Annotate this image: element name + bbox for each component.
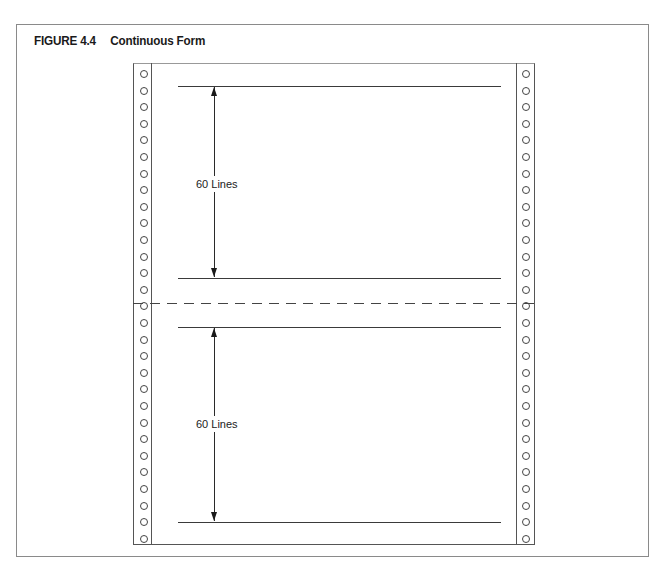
sprocket-hole-icon xyxy=(140,468,148,476)
page2-bottom-line xyxy=(178,522,501,523)
sprocket-hole-icon xyxy=(140,87,148,95)
sprocket-hole-icon xyxy=(522,87,530,95)
sprocket-hole-icon xyxy=(522,186,530,194)
sprocket-hole-icon xyxy=(140,269,148,277)
continuous-form-paper xyxy=(133,63,535,545)
sprocket-hole-icon xyxy=(522,203,530,211)
sprocket-hole-icon xyxy=(140,236,148,244)
sprocket-hole-icon xyxy=(140,518,148,526)
sprocket-hole-icon xyxy=(140,70,148,78)
sprocket-hole-icon xyxy=(522,236,530,244)
page1-line-count-label: 60 Lines xyxy=(194,176,240,192)
sprocket-hole-icon xyxy=(140,535,148,543)
sprocket-hole-icon xyxy=(140,435,148,443)
sprocket-hole-icon xyxy=(140,385,148,393)
sprocket-hole-icon xyxy=(140,452,148,460)
sprocket-hole-icon xyxy=(140,402,148,410)
sprocket-hole-icon xyxy=(522,402,530,410)
sprocket-hole-icon xyxy=(522,170,530,178)
sprocket-hole-icon xyxy=(522,336,530,344)
sprocket-hole-icon xyxy=(522,352,530,360)
sprocket-hole-icon xyxy=(140,170,148,178)
sprocket-hole-icon xyxy=(140,136,148,144)
arrow-up-icon xyxy=(211,87,217,96)
sprocket-hole-icon xyxy=(522,419,530,427)
sprocket-hole-icon xyxy=(140,485,148,493)
sprocket-hole-icon xyxy=(522,452,530,460)
left-sprocket-strip xyxy=(133,63,152,545)
sprocket-hole-icon xyxy=(522,468,530,476)
sprocket-hole-icon xyxy=(522,319,530,327)
sprocket-hole-icon xyxy=(140,419,148,427)
sprocket-hole-icon xyxy=(522,369,530,377)
sprocket-hole-icon xyxy=(522,219,530,227)
right-sprocket-strip xyxy=(516,63,535,545)
arrow-down-icon xyxy=(211,512,217,521)
sprocket-hole-icon xyxy=(140,120,148,128)
sprocket-hole-icon xyxy=(522,535,530,543)
sprocket-hole-icon xyxy=(522,153,530,161)
sprocket-hole-icon xyxy=(522,385,530,393)
page1-top-line xyxy=(178,86,501,87)
sprocket-hole-icon xyxy=(140,103,148,111)
sprocket-hole-icon xyxy=(140,352,148,360)
figure-caption: FIGURE 4.4Continuous Form xyxy=(34,33,205,48)
sprocket-hole-icon xyxy=(140,502,148,510)
perforation-dashed-line xyxy=(133,303,535,304)
sprocket-hole-icon xyxy=(522,103,530,111)
figure-number: FIGURE 4.4 xyxy=(34,33,96,48)
sprocket-hole-icon xyxy=(140,253,148,261)
sprocket-hole-icon xyxy=(140,186,148,194)
arrow-down-icon xyxy=(211,268,217,277)
page2-top-line xyxy=(178,327,501,328)
sprocket-hole-icon xyxy=(522,136,530,144)
sprocket-hole-icon xyxy=(140,319,148,327)
sprocket-hole-icon xyxy=(140,286,148,294)
sprocket-hole-icon xyxy=(522,502,530,510)
sprocket-hole-icon xyxy=(522,286,530,294)
arrow-up-icon xyxy=(211,328,217,337)
sprocket-hole-icon xyxy=(522,120,530,128)
sprocket-hole-icon xyxy=(140,203,148,211)
sprocket-hole-icon xyxy=(522,269,530,277)
page2-line-count-label: 60 Lines xyxy=(194,416,240,432)
sprocket-hole-icon xyxy=(522,485,530,493)
sprocket-hole-icon xyxy=(522,518,530,526)
page1-bottom-line xyxy=(178,278,501,279)
sprocket-hole-icon xyxy=(140,219,148,227)
sprocket-hole-icon xyxy=(522,70,530,78)
sprocket-hole-icon xyxy=(140,336,148,344)
sprocket-hole-icon xyxy=(140,369,148,377)
sprocket-hole-icon xyxy=(140,153,148,161)
sprocket-hole-icon xyxy=(522,253,530,261)
figure-title: Continuous Form xyxy=(110,33,205,48)
sprocket-hole-icon xyxy=(522,435,530,443)
